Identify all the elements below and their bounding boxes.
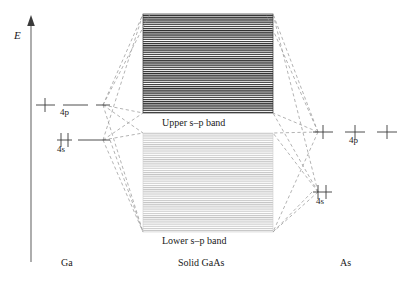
figure-canvas: E 4p 4s 4p 4s Upper s–p band Lower s–p b… xyxy=(0,0,407,287)
upper-band-label: Upper s–p band xyxy=(162,118,225,128)
ga-4p-level xyxy=(36,98,110,112)
energy-axis-label: E xyxy=(14,30,21,41)
ga-4p-label: 4p xyxy=(60,108,69,117)
ga-4s-label: 4s xyxy=(57,145,65,154)
footer-label-as: As xyxy=(340,258,351,268)
lower-band-label: Lower s–p band xyxy=(162,236,226,246)
as-4s-label: 4s xyxy=(316,197,324,206)
footer-label-ga: Ga xyxy=(61,258,73,268)
energy-axis xyxy=(27,15,35,262)
footer-label-solid-gaas: Solid GaAs xyxy=(178,258,224,268)
as-4p-label: 4p xyxy=(349,136,358,145)
